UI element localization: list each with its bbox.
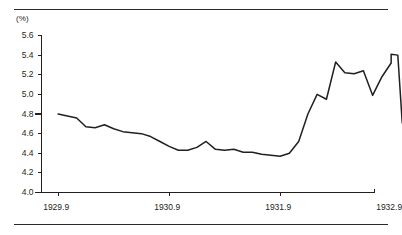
y-axis-tick-label: 4.2 <box>12 168 34 177</box>
y-axis-tick-label: 4.4 <box>12 149 34 158</box>
y-axis-tick-label: 5.2 <box>12 70 34 79</box>
x-axis-tick-label: 1932.9 <box>376 203 402 212</box>
x-axis-tick-label: 1930.9 <box>154 203 180 212</box>
y-axis-tick-label: 5.6 <box>12 31 34 40</box>
x-axis-tick-label: 1931.9 <box>265 203 291 212</box>
line-chart-plot <box>0 0 402 235</box>
y-axis-tick-label: 4.0 <box>12 188 34 197</box>
axes-group <box>35 36 375 197</box>
data-series-group <box>58 54 402 156</box>
data-line <box>58 54 402 156</box>
x-axis-tick-label: 1929.9 <box>43 203 69 212</box>
y-axis-tick-label: 4.8 <box>12 110 34 119</box>
y-axis-tick-label: 5.0 <box>12 90 34 99</box>
y-axis-tick-label: 5.4 <box>12 51 34 60</box>
y-axis-tick-label: 4.6 <box>12 129 34 138</box>
figure-container: (%) 5.65.45.25.04.84.64.44.24.0 1929.919… <box>0 0 402 235</box>
